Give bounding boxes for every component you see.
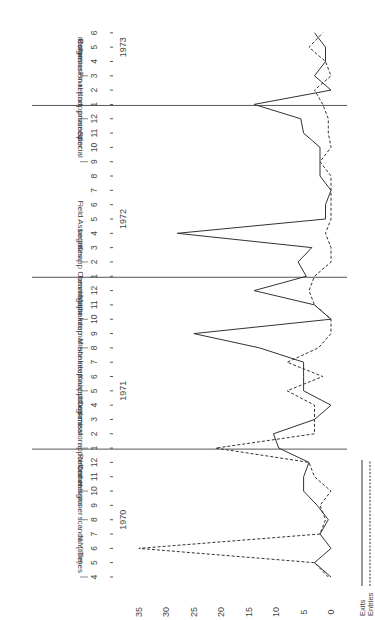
month-tick-label: 2 bbox=[89, 87, 99, 92]
month-tick-label: 4 bbox=[89, 403, 99, 408]
value-tick-label: 15 bbox=[244, 607, 254, 617]
month-tick-label: 7 bbox=[89, 531, 99, 536]
month-tick-label: 1 bbox=[89, 102, 99, 107]
series-entries bbox=[139, 33, 331, 577]
month-tick-label: 11 bbox=[89, 300, 99, 309]
month-tick-label: 8 bbox=[89, 173, 99, 178]
month-tick-label: 6 bbox=[89, 202, 99, 207]
month-tick-label: 10 bbox=[89, 142, 99, 152]
event-annotations: N.Y. Timesscandal (title)Commissionerres… bbox=[76, 37, 88, 577]
event-annotation: Minor internalshakeup bbox=[76, 338, 88, 390]
rotated-line-chart: 4567891011121234567891011121234567891011… bbox=[0, 0, 375, 620]
month-tick-label: 1 bbox=[89, 445, 99, 450]
event-annotation: Field Associatesbegin bbox=[76, 200, 88, 262]
annotation-text: shakeup bbox=[76, 348, 85, 379]
value-tick-label: 5 bbox=[299, 609, 309, 614]
month-axis: 4567891011121234567891011121234567891011… bbox=[89, 30, 128, 579]
month-tick-label: 2 bbox=[89, 259, 99, 264]
month-tick-label: 6 bbox=[89, 30, 99, 35]
month-tick-label: 8 bbox=[89, 517, 99, 522]
month-tick-label: 7 bbox=[89, 360, 99, 365]
month-tick-label: 6 bbox=[89, 374, 99, 379]
year-label: 1972 bbox=[118, 209, 128, 229]
legend-entries-label: Entries bbox=[366, 592, 375, 616]
chart-canvas: 4567891011121234567891011121234567891011… bbox=[0, 0, 375, 620]
month-tick-label: 12 bbox=[89, 457, 99, 467]
month-tick-label: 12 bbox=[89, 286, 99, 296]
month-tick-label: 4 bbox=[89, 574, 99, 579]
year-label: 1970 bbox=[118, 510, 128, 530]
legend: ExitsEntries bbox=[358, 460, 375, 616]
event-annotation: Reformerresigns bbox=[76, 37, 88, 76]
month-tick-label: 2 bbox=[89, 431, 99, 436]
month-tick-label: 5 bbox=[89, 560, 99, 565]
month-tick-label: 12 bbox=[89, 114, 99, 124]
month-tick-label: 6 bbox=[89, 546, 99, 551]
month-tick-label: 5 bbox=[89, 388, 99, 393]
year-label: 1971 bbox=[118, 381, 128, 401]
value-tick-label: 35 bbox=[134, 607, 144, 617]
month-tick-label: 4 bbox=[89, 231, 99, 236]
month-tick-label: 4 bbox=[89, 59, 99, 64]
series-exits bbox=[177, 33, 331, 577]
annotation-text: scandal (title) bbox=[76, 516, 85, 564]
month-tick-label: 3 bbox=[89, 73, 99, 78]
annotation-text: resigns bbox=[76, 37, 85, 63]
year-label: 1973 bbox=[118, 37, 128, 57]
month-tick-label: 5 bbox=[89, 216, 99, 221]
month-tick-label: 11 bbox=[89, 128, 99, 137]
month-tick-label: 9 bbox=[89, 503, 99, 508]
event-annotation: N.Y. Timesscandal (title) bbox=[76, 516, 88, 577]
value-tick-label: 20 bbox=[216, 607, 226, 617]
value-tick-label: 0 bbox=[326, 609, 336, 614]
month-tick-label: 9 bbox=[89, 159, 99, 164]
month-tick-label: 7 bbox=[89, 188, 99, 193]
month-tick-label: 3 bbox=[89, 245, 99, 250]
month-tick-label: 5 bbox=[89, 45, 99, 50]
month-tick-label: 3 bbox=[89, 417, 99, 422]
annotation-text: hearings bbox=[76, 276, 85, 307]
annotation-text: begin bbox=[76, 229, 85, 249]
month-tick-label: 8 bbox=[89, 345, 99, 350]
month-tick-label: 11 bbox=[89, 472, 99, 481]
value-tick-label: 30 bbox=[161, 607, 171, 617]
series-lines bbox=[139, 33, 331, 577]
month-tick-label: 10 bbox=[89, 486, 99, 496]
month-tick-label: 9 bbox=[89, 331, 99, 336]
month-tick-label: 10 bbox=[89, 314, 99, 324]
value-tick-label: 10 bbox=[271, 607, 281, 617]
value-axis: 05101520253035 bbox=[134, 607, 336, 617]
event-annotation: Reformerappointed bbox=[76, 443, 88, 491]
value-tick-label: 25 bbox=[189, 607, 199, 617]
annotation-text: burglars bbox=[76, 397, 85, 426]
month-tick-label: 1 bbox=[89, 274, 99, 279]
